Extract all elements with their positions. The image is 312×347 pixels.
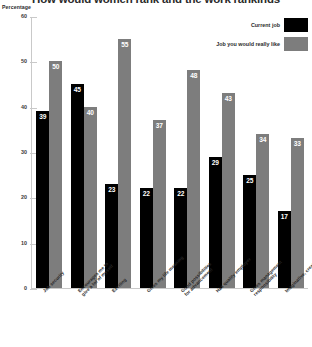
bar[interactable]: 25 [243, 175, 256, 288]
bar-value-label: 43 [225, 95, 232, 102]
bar-value-label: 39 [39, 113, 46, 120]
y-axis-caption: Percentage [2, 4, 31, 10]
y-tick-label: 0 [24, 285, 27, 291]
bar-value-label: 34 [259, 136, 266, 143]
legend-item[interactable]: Current job [180, 18, 308, 32]
bar-value-label: 22 [177, 190, 184, 197]
chart-title: How would women rank and the work rankin… [0, 0, 312, 3]
bar[interactable]: 45 [71, 84, 84, 288]
bar[interactable]: 33 [291, 138, 304, 288]
y-tick-label: 60 [21, 13, 27, 19]
y-tick-label: 10 [21, 240, 27, 246]
bar-value-label: 25 [246, 177, 253, 184]
bar-group: 2237 [136, 17, 171, 288]
y-tick-label: 40 [21, 104, 27, 110]
bar-value-label: 45 [74, 86, 81, 93]
legend-swatch [284, 37, 308, 51]
bar-group: 2943 [205, 17, 240, 288]
y-tick-label: 30 [21, 149, 27, 155]
bar-group: 3950 [32, 17, 67, 288]
legend-label: Job you would really like [216, 41, 280, 47]
x-axis-labels: Job securityEncourages me togive a lot o… [31, 290, 308, 347]
bar[interactable]: 22 [140, 188, 153, 288]
bar[interactable]: 34 [256, 134, 269, 288]
bar-group: 2355 [101, 17, 136, 288]
bar-group: 1733 [274, 17, 309, 288]
legend-swatch [284, 18, 308, 32]
bar-value-label: 40 [87, 109, 94, 116]
bar-value-label: 48 [190, 72, 197, 79]
bar-value-label: 55 [121, 41, 128, 48]
bar[interactable]: 43 [222, 93, 235, 288]
bar[interactable]: 17 [278, 211, 291, 288]
bar-groups: 39504540235522372248294325341733 [32, 17, 308, 288]
bar[interactable]: 48 [187, 70, 200, 288]
bar-value-label: 22 [143, 190, 150, 197]
bar[interactable]: 50 [49, 61, 62, 288]
bar-value-label: 37 [156, 122, 163, 129]
bar-value-label: 50 [52, 63, 59, 70]
bar[interactable]: 40 [84, 107, 97, 288]
plot-area: 0102030405060 39504540235522372248294325… [31, 17, 308, 289]
bar-value-label: 17 [281, 213, 288, 220]
bar-value-label: 33 [294, 140, 301, 147]
bar[interactable]: 39 [36, 111, 49, 288]
legend-label: Current job [251, 22, 280, 28]
bar-group: 2248 [170, 17, 205, 288]
bar[interactable]: 22 [174, 188, 187, 288]
bar-chart: How would women rank and the work rankin… [0, 0, 312, 347]
y-tick-label: 20 [21, 194, 27, 200]
bar-value-label: 29 [212, 159, 219, 166]
chart-legend: Current jobJob you would really like [180, 18, 308, 56]
y-tick-label: 50 [21, 58, 27, 64]
legend-item[interactable]: Job you would really like [180, 37, 308, 51]
bar-group: 2534 [239, 17, 274, 288]
bar-group: 4540 [67, 17, 102, 288]
bar-value-label: 23 [108, 186, 115, 193]
x-axis-baseline [31, 288, 308, 289]
bar[interactable]: 55 [118, 39, 131, 288]
bar[interactable]: 37 [153, 120, 166, 288]
